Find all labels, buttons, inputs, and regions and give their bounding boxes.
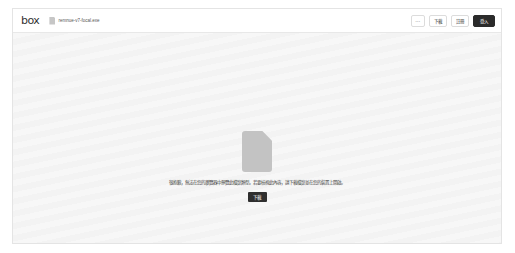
preview-frame: box remnue-v7-focal.exe ⋯ 下載 註冊 登入 很抱歉，無…	[12, 8, 502, 244]
header-actions: ⋯ 下載 註冊 登入	[411, 15, 495, 27]
header-bar: box remnue-v7-focal.exe ⋯ 下載 註冊 登入	[13, 9, 501, 33]
preview-area: 很抱歉，無法在您的瀏覽器中預覽此檔案類型。若要檢視此內容，請下載檔案並在您的裝置…	[13, 33, 501, 243]
box-logo[interactable]: box	[21, 14, 39, 27]
download-button[interactable]: 下載	[429, 15, 447, 27]
signup-button[interactable]: 註冊	[451, 15, 469, 27]
file-icon	[49, 17, 55, 25]
file-icon	[242, 131, 272, 172]
download-file-button[interactable]: 下載	[248, 192, 267, 202]
preview-error: 很抱歉，無法在您的瀏覽器中預覽此檔案類型。若要檢視此內容，請下載檔案並在您的裝置…	[13, 131, 501, 202]
file-title: remnue-v7-focal.exe	[49, 17, 99, 25]
file-name: remnue-v7-focal.exe	[58, 18, 99, 23]
preview-error-message: 很抱歉，無法在您的瀏覽器中預覽此檔案類型。若要檢視此內容，請下載檔案並在您的裝置…	[169, 179, 345, 185]
more-options-button[interactable]: ⋯	[411, 15, 425, 27]
login-button[interactable]: 登入	[473, 15, 495, 27]
